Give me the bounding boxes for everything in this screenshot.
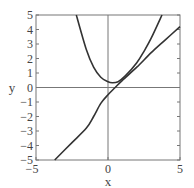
y-tick-label: 2 xyxy=(27,52,33,66)
y-tick-label: 4 xyxy=(27,23,33,37)
y-tick-label: 0 xyxy=(27,81,33,95)
x-axis-label: x xyxy=(105,174,112,188)
series-parabola xyxy=(76,15,162,83)
y-tick-label: 1 xyxy=(27,66,33,80)
y-tick-label: 3 xyxy=(27,37,33,51)
y-tick-label: −2 xyxy=(20,110,33,124)
y-axis-label: y xyxy=(9,80,16,95)
x-tick-label: 5 xyxy=(177,162,183,176)
x-tick-label: −5 xyxy=(26,162,39,176)
zero-axes xyxy=(36,15,180,160)
y-tick-label: −3 xyxy=(20,124,33,138)
y-tick-label: −4 xyxy=(20,139,33,153)
chart: 543210−1−2−3−4−5 −505 y x xyxy=(0,0,194,188)
y-tick-label: −1 xyxy=(20,95,33,109)
y-tick-label: 5 xyxy=(27,8,33,22)
series-line xyxy=(55,27,180,160)
